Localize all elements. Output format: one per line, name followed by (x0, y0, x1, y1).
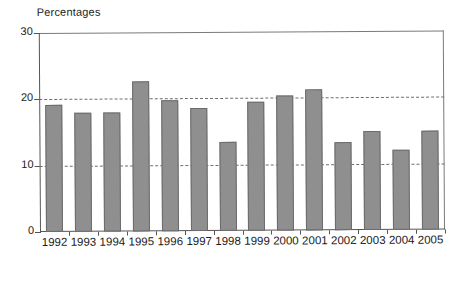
bar-2002 (335, 143, 353, 231)
figure-caption (18, 272, 318, 282)
chart-canvas: Percentages 0102030 19921993199419951996… (0, 0, 464, 282)
y-axis-tick-labels: 0102030 (0, 33, 34, 232)
bar-1992 (45, 105, 63, 232)
y-tick-label-0: 0 (8, 224, 34, 236)
x-label-2005: 2005 (414, 234, 448, 246)
y-tick-0 (35, 232, 41, 233)
y-tick-label-20: 20 (7, 91, 33, 103)
bar-1993 (74, 112, 92, 231)
y-tick-label-10: 10 (8, 158, 34, 170)
bar-1994 (103, 113, 121, 232)
bar-2001 (305, 90, 323, 231)
bar-2003 (364, 130, 382, 230)
bar-series (39, 31, 445, 232)
bar-2004 (393, 150, 410, 230)
x-axis-tick-labels: 1992199319941995199619971998199920002001… (40, 234, 445, 254)
y-axis-title: Percentages (37, 6, 101, 18)
y-tick-label-30: 30 (7, 25, 33, 37)
plot-area (39, 31, 445, 232)
bar-1999 (248, 101, 266, 230)
bar-2005 (421, 131, 439, 230)
bar-1998 (219, 142, 237, 231)
bar-1996 (161, 100, 179, 231)
bar-1995 (132, 81, 150, 231)
bar-2000 (277, 96, 295, 231)
bar-1997 (190, 108, 208, 231)
bar-chart-figure: Percentages 0102030 19921993199419951996… (0, 0, 464, 282)
